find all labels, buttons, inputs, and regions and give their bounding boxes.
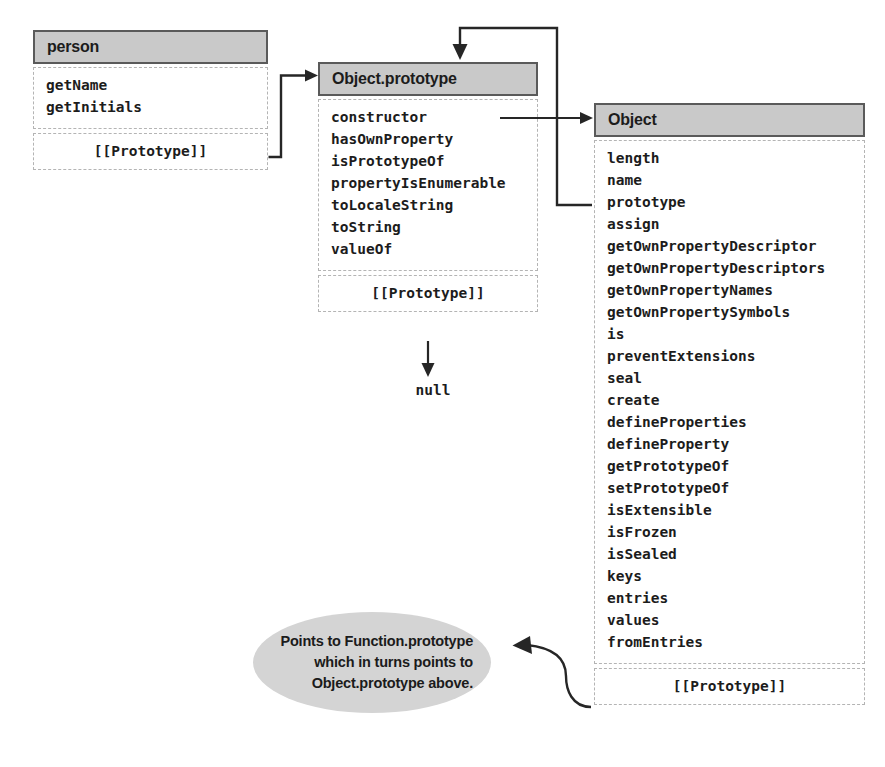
object-property-5: getOwnPropertyDescriptors [607,257,864,279]
object-property-18: isSealed [607,543,864,565]
object-property-7: getOwnPropertySymbols [607,301,864,323]
object-property-20: entries [607,587,864,609]
object-property-4: getOwnPropertyDescriptor [607,235,864,257]
callout-line-2: Object.prototype above. [280,673,473,694]
object-property-0: length [607,147,864,169]
object-box-person: person getNamegetInitials [[Prototype]] [33,30,268,170]
callout-bubble: Points to Function.prototypewhich in tur… [253,612,491,713]
object-property-13: defineProperty [607,433,864,455]
object-property-8: is [607,323,864,345]
object-property-2: prototype [607,191,864,213]
object-prototype-property-2: isPrototypeOf [331,150,537,172]
object-property-3: assign [607,213,864,235]
wire-person-to-object-prototype [269,70,319,158]
object-property-17: isFrozen [607,521,864,543]
wire-object-slot-to-callout [513,636,592,707]
object-properties-section: lengthnameprototypeassigngetOwnPropertyD… [594,140,865,664]
object-prototype-slot-label: [[Prototype]] [595,675,864,697]
callout-line-1: which in turns points to [280,652,473,673]
object-prototype-property-1: hasOwnProperty [331,128,537,150]
callout-text: Points to Function.prototypewhich in tur… [280,631,491,694]
object-prototype-slot-section: [[Prototype]] [594,668,865,705]
object-prototype-prototype-section: [[Prototype]] [318,275,538,312]
object-property-14: getPrototypeOf [607,455,864,477]
object-property-12: defineProperties [607,411,864,433]
person-property-0: getName [46,74,267,96]
object-box-object: Object lengthnameprototypeassigngetOwnPr… [594,103,865,705]
object-property-21: values [607,609,864,631]
object-property-19: keys [607,565,864,587]
wire-object-prototype-to-null [422,341,435,377]
callout-line-0: Points to Function.prototype [280,631,473,652]
object-box-object-prototype: Object.prototype constructorhasOwnProper… [318,62,538,312]
object-property-16: isExtensible [607,499,864,521]
person-prototype-label: [[Prototype]] [34,140,267,162]
object-property-15: setPrototypeOf [607,477,864,499]
person-property-1: getInitials [46,96,267,118]
object-prototype-prototype-label: [[Prototype]] [319,282,537,304]
person-properties-section: getNamegetInitials [33,67,268,129]
object-property-11: create [607,389,864,411]
null-label: null [383,382,483,398]
object-prototype-property-0: constructor [331,106,537,128]
object-prototype-property-4: toLocaleString [331,194,537,216]
object-prototype-properties-section: constructorhasOwnPropertyisPrototypeOfpr… [318,99,538,271]
object-property-1: name [607,169,864,191]
person-prototype-section: [[Prototype]] [33,133,268,170]
object-property-10: seal [607,367,864,389]
object-property-6: getOwnPropertyNames [607,279,864,301]
object-property-9: preventExtensions [607,345,864,367]
object-prototype-property-3: propertyIsEnumerable [331,172,537,194]
object-property-22: fromEntries [607,631,864,653]
object-header: Object [594,103,865,137]
diagram-canvas: person getNamegetInitials [[Prototype]] … [0,0,885,767]
object-prototype-property-6: valueOf [331,238,537,260]
person-header: person [33,30,268,64]
object-prototype-property-5: toString [331,216,537,238]
object-prototype-header: Object.prototype [318,62,538,96]
